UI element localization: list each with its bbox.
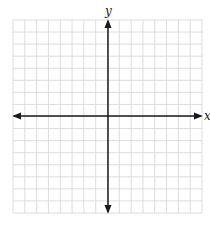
- x-axis-label: x: [204, 109, 210, 123]
- coordinate-plane: x y: [0, 0, 210, 228]
- y-axis-label: y: [104, 4, 112, 18]
